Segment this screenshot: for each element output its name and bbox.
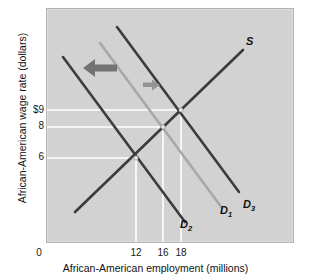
curve-label-d2: D2 (180, 218, 192, 233)
x-tick-12: 12 (130, 247, 141, 258)
curve-label-d2-sub: 2 (188, 224, 192, 233)
curve-label-s-text: S (246, 35, 253, 47)
curve-label-d3: D3 (243, 198, 255, 213)
y-axis-title: African-American wage rate (dollars) (16, 3, 28, 233)
curve-label-d1-text: D (220, 204, 228, 216)
x-tick-16: 16 (157, 247, 168, 258)
y-tick-label-9: $9 (33, 104, 44, 115)
economics-chart-figure: $9 8 6 0 12 16 18 S D2 D1 D3 African-Ame… (0, 0, 311, 278)
y-tick-label-8: 8 (38, 120, 44, 131)
curve-label-d3-text: D (243, 198, 251, 210)
curve-label-d2-text: D (180, 218, 188, 230)
x-tick-18: 18 (175, 247, 186, 258)
y-tick-label-6: 6 (38, 151, 44, 162)
curve-label-s: S (246, 35, 253, 47)
origin-label: 0 (36, 247, 42, 258)
curve-label-d3-sub: 3 (251, 204, 255, 213)
plot-area (46, 8, 294, 243)
curve-label-d1: D1 (220, 204, 232, 219)
curve-label-d1-sub: 1 (228, 210, 232, 219)
x-axis-title: African-American employment (millions) (0, 262, 311, 274)
